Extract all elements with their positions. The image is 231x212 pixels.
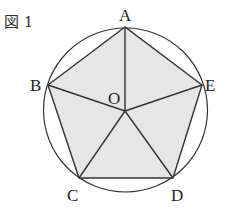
pentagon-figure: 図 1 A B C D E O — [0, 0, 231, 212]
label-c: C — [67, 186, 78, 205]
label-o: O — [108, 89, 120, 108]
label-b: B — [30, 76, 41, 95]
label-e: E — [205, 76, 215, 95]
pentagon-diagram: A B C D E O — [0, 0, 231, 212]
label-d: D — [171, 186, 183, 205]
label-a: A — [119, 6, 132, 25]
